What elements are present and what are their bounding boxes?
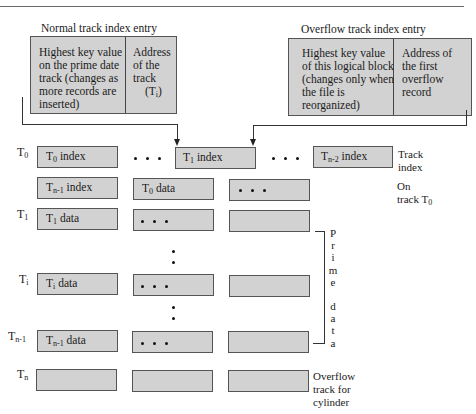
normal-entry-divider	[125, 37, 126, 113]
ti-col3-box	[229, 275, 310, 297]
overflow-track-label: Overflowtrack forcylinder	[313, 370, 355, 409]
overflow-arrow-line-v	[466, 110, 467, 126]
row-label-t0: T0	[17, 145, 28, 160]
tn-2-index-box: Tn-2 index	[313, 146, 393, 168]
tn-1-data-box: Tn-1 data	[37, 330, 118, 352]
overflow-arrow-line-down	[253, 125, 254, 140]
overflow-entry-title: Overflow track index entry	[301, 23, 426, 35]
normal-arrow-head-icon	[174, 139, 180, 146]
track-index-label: Trackindex	[398, 148, 423, 174]
ti-col2-box	[133, 274, 214, 296]
t0-index-box: T0 index	[37, 146, 118, 168]
overflow-arrow-line-h	[253, 125, 467, 126]
normal-entry-title: Normal track index entry	[41, 22, 157, 34]
overflow-arrow-head-icon	[250, 139, 256, 146]
normal-entry-key-text: Highest key value on the prime date trac…	[39, 46, 125, 111]
t1-col2-box	[133, 209, 214, 231]
tn-col3-box	[228, 370, 309, 392]
ti-data-box: Ti data	[37, 273, 118, 295]
t1-index-box: T1 index	[175, 147, 256, 169]
normal-arrow-line-h	[22, 124, 178, 125]
overflow-entry-address-text: Address of the first overflow record	[402, 47, 462, 99]
tn-col2-box	[132, 370, 213, 392]
overflow-entry-key-text: Highest key value of this logical block …	[302, 47, 394, 112]
row-label-tn: Tn	[17, 367, 28, 382]
tn-1-index-box: Tn-1 index	[37, 177, 118, 199]
top-rule	[0, 6, 464, 7]
on-track-t0-label: Ontrack T0	[397, 180, 432, 206]
tn-col1-box	[36, 369, 117, 391]
normal-arrow-line-v	[22, 97, 23, 125]
prime-data-label: Primedata	[328, 227, 338, 349]
t0-data-box: T0 data	[133, 178, 214, 200]
t1-col3-box	[229, 210, 310, 232]
tn-1-col2-box	[132, 331, 213, 353]
row-label-ti: Ti	[19, 272, 29, 287]
prime-bracket-bottom	[313, 343, 325, 344]
prime-bracket-v	[324, 231, 325, 344]
row2-col3-box	[229, 179, 310, 201]
normal-entry-address-text: Address of the track (Ti)	[133, 46, 177, 98]
row-label-t1: T1	[17, 207, 28, 222]
t1-data-box: T1 data	[37, 208, 118, 230]
overflow-entry-box: Highest key value of this logical block …	[288, 38, 472, 116]
row-label-tn-1: Tn-1	[8, 329, 26, 344]
tn-1-col3-box	[228, 331, 309, 353]
normal-arrow-line-down	[177, 124, 178, 140]
normal-entry-box: Highest key value on the prime date trac…	[30, 36, 177, 114]
